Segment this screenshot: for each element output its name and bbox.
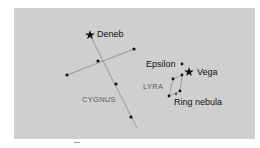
lyra-label: LYRA	[143, 83, 163, 91]
lyra-line	[169, 79, 173, 96]
cygnus-label: CYGNUS	[82, 96, 116, 104]
star-dot-icon	[179, 90, 182, 93]
lyra-line	[173, 75, 182, 79]
star-dot-icon	[172, 78, 175, 81]
star-dot-icon	[96, 59, 99, 62]
cygnus-main-axis-line	[90, 35, 137, 128]
epsilon-label: Epsilon	[146, 60, 176, 69]
star-dot-icon	[129, 115, 132, 118]
lyra-lines	[169, 75, 182, 96]
star-dot-icon	[114, 82, 117, 85]
epsilon-star-dot-icon	[181, 63, 184, 66]
constellation-diagram	[0, 0, 260, 148]
ring-nebula-label: Ring nebula	[174, 98, 222, 107]
vega-star-icon	[184, 67, 194, 76]
star-dot-icon	[132, 47, 135, 50]
star-dot-icon	[181, 74, 184, 77]
footnote-mark	[74, 142, 80, 143]
lyra-line	[180, 75, 182, 91]
cygnus-stars	[65, 30, 135, 119]
cygnus-wing-line	[67, 49, 134, 75]
star-dot-icon	[65, 73, 68, 76]
cygnus-lines	[67, 35, 137, 128]
deneb-label: Deneb	[97, 30, 124, 39]
lyra-line	[169, 91, 180, 96]
deneb-star-icon	[85, 30, 95, 39]
ring-nebula-icon	[175, 93, 177, 95]
vega-label: Vega	[197, 68, 218, 77]
star-dot-icon	[168, 95, 171, 98]
